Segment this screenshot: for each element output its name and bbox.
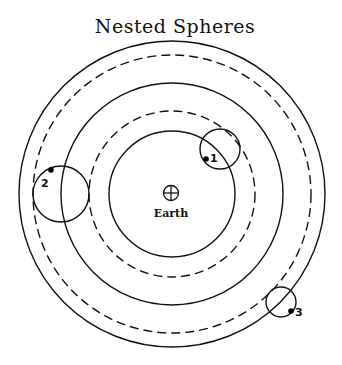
planet-dot: [48, 167, 54, 173]
spheres: [19, 41, 325, 347]
planet-label: 1: [210, 152, 218, 165]
diagram-title: Nested Spheres: [95, 15, 255, 37]
earth-symbol-icon: [164, 186, 179, 201]
planet-label: 2: [41, 177, 49, 190]
nested-spheres-diagram: Nested Spheres Earth 1 2 3: [0, 0, 342, 365]
sphere-outer-dashed: [33, 55, 311, 333]
planet-dot: [203, 156, 209, 162]
epicycle-1: 1: [200, 129, 240, 169]
sphere-outer: [19, 41, 325, 347]
sphere-inner: [109, 131, 235, 257]
epicycle-3: 3: [266, 287, 303, 319]
planet-dot: [288, 308, 294, 314]
planet-label: 3: [295, 306, 303, 319]
epicycle-circle: [200, 129, 240, 169]
sphere-middle-dashed: [89, 111, 255, 277]
earth-label: Earth: [154, 207, 188, 220]
sphere-middle: [61, 83, 283, 305]
